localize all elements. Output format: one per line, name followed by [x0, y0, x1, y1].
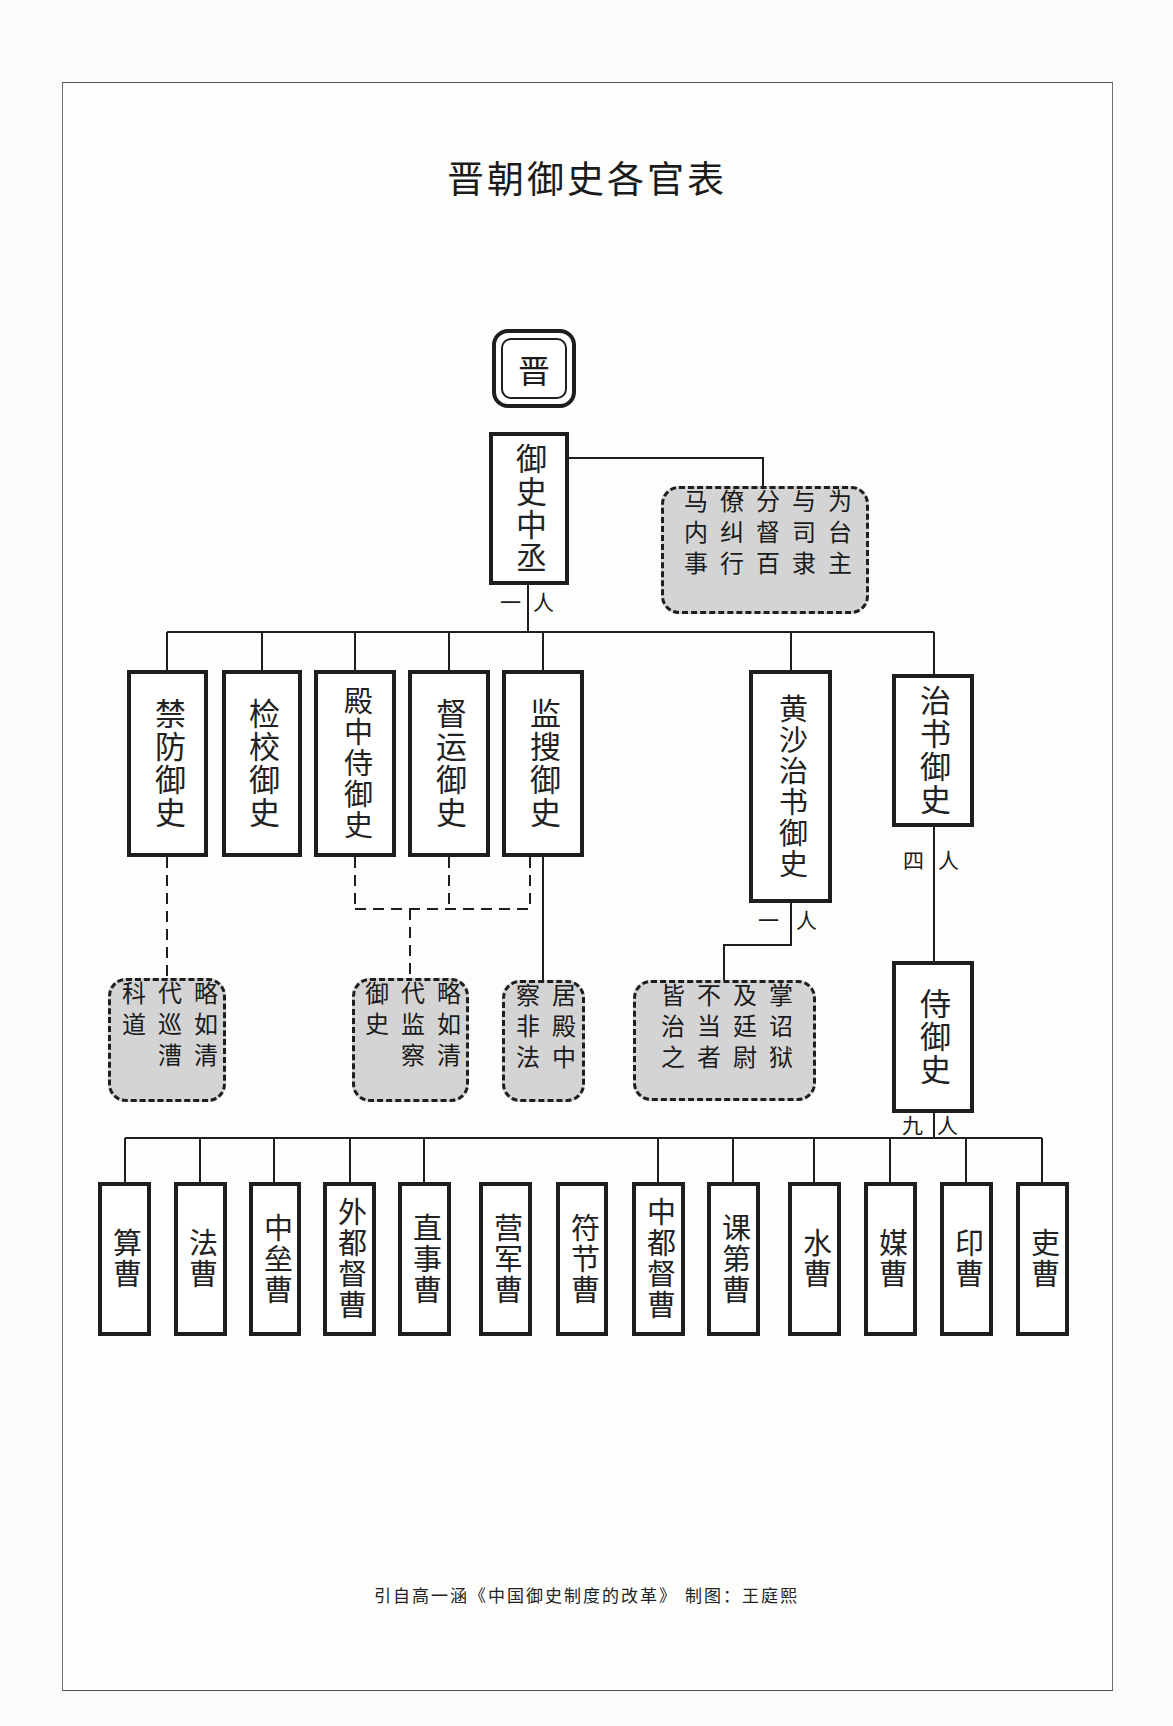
count-right: 人: [938, 851, 959, 872]
count-right: 人: [533, 593, 554, 614]
note-jinfang: 略如清代巡漕科道: [108, 978, 226, 1102]
node-label: 媒曹: [876, 1228, 905, 1290]
node-huangsha-zhishu-yushi: 黄沙治书御史: [749, 670, 832, 903]
node-label: 法曹: [186, 1228, 215, 1290]
node-zhongdudu-cao: 中都督曹: [632, 1182, 685, 1336]
node-zhishu-yushi: 治书御史: [892, 674, 974, 827]
node-label: 禁防御史: [152, 698, 183, 830]
count-left: 四: [903, 851, 924, 872]
node-label: 水曹: [800, 1228, 829, 1290]
node-mei-cao: 媒曹: [864, 1182, 917, 1336]
count-left: 九: [902, 1116, 923, 1137]
node-label: 检校御史: [247, 698, 278, 830]
node-kedi-cao: 课第曹: [707, 1182, 760, 1336]
node-dianzhong-shiyushi: 殿中侍御史: [314, 670, 396, 857]
count-left: 一: [500, 593, 521, 614]
root-dynasty-node: 晋: [492, 329, 576, 408]
node-label: 符节曹: [568, 1213, 597, 1306]
node-label: 印曹: [952, 1228, 981, 1290]
node-yin-cao: 印曹: [940, 1182, 993, 1336]
node-label: 治书御史: [918, 685, 949, 817]
node-label: 中都督曹: [644, 1197, 673, 1321]
node-suan-cao: 算曹: [98, 1182, 151, 1336]
connector-lines: [0, 0, 1173, 1726]
source-caption: 引自高一涵《中国御史制度的改革》 制图：王庭熙: [0, 1582, 1173, 1607]
node-yingjun-cao: 营军曹: [479, 1182, 532, 1336]
note-text: 掌诏狱及廷尉不当者皆治之: [653, 983, 797, 1098]
node-zhishi-cao: 直事曹: [398, 1182, 451, 1336]
node-label: 督运御史: [434, 698, 465, 830]
node-label: 吏曹: [1028, 1228, 1057, 1290]
node-fa-cao: 法曹: [174, 1182, 227, 1336]
node-jianjiao-yushi: 检校御史: [222, 670, 302, 857]
node-label: 御史中丞: [514, 443, 545, 575]
node-jinfang-yushi: 禁防御史: [127, 670, 208, 857]
node-label: 殿中侍御史: [341, 686, 370, 841]
node-yushi-zhongcheng: 御史中丞: [489, 432, 569, 585]
note-huangsha: 掌诏狱及廷尉不当者皆治之: [633, 980, 816, 1101]
node-label: 外都督曹: [335, 1197, 364, 1321]
note-text: 略如清代监察御史: [357, 981, 465, 1099]
node-jiansou-yushi: 监搜御史: [502, 670, 584, 857]
count-right: 人: [796, 911, 817, 932]
node-zhonglei-cao: 中垒曹: [249, 1182, 301, 1336]
node-label: 黄沙治书御史: [776, 694, 805, 880]
node-label: 侍御史: [918, 988, 949, 1087]
node-fujie-cao: 符节曹: [556, 1182, 608, 1336]
count-left: 一: [758, 911, 779, 932]
note-jiansou: 居殿中察非法: [502, 980, 585, 1102]
node-duyun-yushi: 督运御史: [408, 670, 490, 857]
node-label: 营军曹: [491, 1213, 520, 1306]
node-shiyushi: 侍御史: [892, 961, 974, 1113]
node-label: 算曹: [110, 1228, 139, 1290]
note-dianzhong-group: 略如清代监察御史: [352, 978, 469, 1102]
note-head-duties: 为台主与司隶分督百僚纠行马内事: [661, 486, 869, 614]
count-right: 人: [937, 1116, 958, 1137]
node-label: 中垒曹: [261, 1213, 290, 1306]
node-shui-cao: 水曹: [788, 1182, 841, 1336]
node-waidudu-cao: 外都督曹: [323, 1182, 376, 1336]
note-text: 略如清代巡漕科道: [113, 981, 221, 1099]
node-li-cao: 吏曹: [1016, 1182, 1069, 1336]
node-label: 监搜御史: [528, 698, 559, 830]
note-text: 居殿中察非法: [508, 983, 580, 1099]
node-label: 直事曹: [410, 1213, 439, 1306]
root-dynasty-label: 晋: [501, 338, 567, 399]
node-label: 课第曹: [719, 1213, 748, 1306]
note-text: 为台主与司隶分督百僚纠行马内事: [675, 489, 855, 611]
